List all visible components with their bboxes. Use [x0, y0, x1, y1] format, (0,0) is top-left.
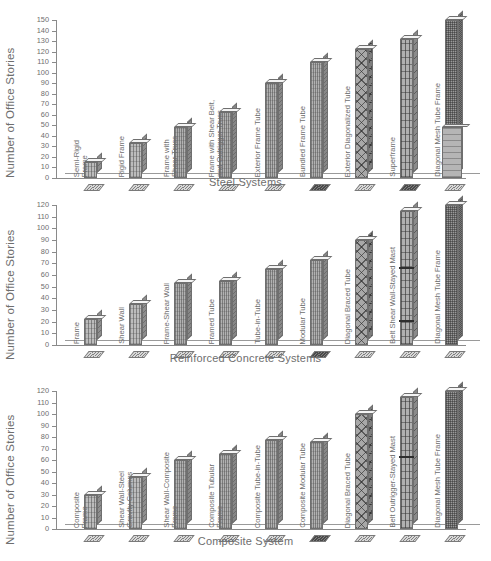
- bar-top: [265, 79, 287, 83]
- y-tick: [52, 83, 57, 84]
- bar-side: [278, 260, 283, 340]
- y-tick-label: 30: [27, 306, 49, 313]
- y-tick-label: 120: [27, 48, 49, 55]
- chart-panel-reinforced-concrete-systems: Number of Office Stories 010203040506070…: [0, 190, 491, 375]
- bar-top: [445, 201, 467, 205]
- y-tick-label: 90: [27, 422, 49, 429]
- y-tick-label: 80: [27, 90, 49, 97]
- y-tick: [52, 252, 57, 253]
- y-tick: [52, 310, 57, 311]
- y-tick: [52, 414, 57, 415]
- y-tick-label: 90: [27, 79, 49, 86]
- bar-top: [445, 387, 467, 391]
- bar-side: [97, 153, 102, 173]
- y-tick: [52, 217, 57, 218]
- bar: [400, 397, 413, 529]
- y-tick-label: 60: [27, 111, 49, 118]
- bar-category-label: Belt Outrigger-Stayed Mast: [389, 436, 397, 528]
- bar-front: [400, 211, 413, 345]
- bar: [265, 269, 278, 345]
- y-tick: [52, 518, 57, 519]
- bar-top: [355, 410, 377, 414]
- bar-category-label: Belt Shear Wall-Stayed Mast: [389, 247, 397, 344]
- bar-category-label: Superframe: [389, 137, 397, 177]
- y-tick: [52, 333, 57, 334]
- y-tick: [52, 146, 57, 147]
- bar-category-label: Composite Modular Tube: [299, 443, 307, 528]
- y-tick-label: 100: [27, 69, 49, 76]
- bar-front: [355, 414, 368, 529]
- y-tick-label: 50: [27, 121, 49, 128]
- y-tick: [52, 52, 57, 53]
- bar-category-label: Shear Wall: [118, 307, 126, 344]
- bar-side: [458, 381, 463, 524]
- bar-front: [445, 205, 458, 345]
- bar-category-label: Diagonal Braced Tube: [344, 453, 352, 528]
- y-tick: [52, 263, 57, 264]
- bar-front: [310, 260, 323, 345]
- bar-category-label: Composite Tube-in-Tube: [254, 445, 262, 528]
- bar-top: [355, 236, 377, 240]
- bar-front: [265, 83, 278, 178]
- bar-top: [400, 207, 422, 211]
- bar-front: [445, 391, 458, 529]
- y-axis-title: Number of Office Stories: [4, 380, 16, 545]
- bar-category-label: Exterior Diagonalized Tube: [344, 86, 352, 177]
- bar-category-label: Shear Wall-Composite Frame: [163, 452, 180, 528]
- bar-category-label: Diagonal Braced Tube: [344, 269, 352, 344]
- y-tick-label: 20: [27, 502, 49, 509]
- bar-category-label: Tube-in-Tube: [254, 299, 262, 344]
- y-tick-label: 10: [27, 514, 49, 521]
- bar-top: [265, 265, 287, 269]
- bar-top: [310, 438, 332, 442]
- bar: [355, 49, 368, 178]
- y-tick-label: 70: [27, 100, 49, 107]
- y-tick: [52, 115, 57, 116]
- y-tick: [52, 125, 57, 126]
- bar-side: [323, 250, 328, 340]
- y-tick: [52, 104, 57, 105]
- bar-category-label: Composite Tubular Frame: [208, 464, 225, 528]
- bar-side: [323, 53, 328, 173]
- bar-front: [129, 143, 142, 178]
- bar-side: [368, 230, 373, 340]
- y-tick: [52, 20, 57, 21]
- bar-front: [219, 281, 232, 345]
- y-tick-label: 120: [27, 201, 49, 208]
- x-axis: [56, 345, 466, 346]
- y-tick: [52, 460, 57, 461]
- bar: [129, 304, 142, 345]
- x-axis-title: Reinforced Concrete Systems: [0, 352, 491, 364]
- bar-side: [323, 432, 328, 524]
- bar-step-notch: [399, 320, 414, 322]
- bar-top: [129, 139, 151, 143]
- y-tick: [52, 426, 57, 427]
- y-tick-label: 30: [27, 491, 49, 498]
- y-tick: [52, 322, 57, 323]
- y-tick: [52, 275, 57, 276]
- bar: [400, 211, 413, 345]
- bar-top: [445, 16, 467, 20]
- y-tick-label: 0: [27, 525, 49, 532]
- y-tick-label: 110: [27, 213, 49, 220]
- bar: [310, 442, 323, 529]
- y-tick-label: 0: [27, 341, 49, 348]
- bar-top: [84, 315, 106, 319]
- y-tick: [52, 298, 57, 299]
- bar-front: [310, 62, 323, 178]
- y-tick-label: 150: [27, 16, 49, 23]
- y-tick: [52, 403, 57, 404]
- bar-side: [187, 450, 192, 524]
- y-tick-label: 50: [27, 283, 49, 290]
- plot-area: 0102030405060708090100110120FrameShear W…: [56, 205, 480, 345]
- bar: [174, 283, 187, 345]
- bar-front: [355, 49, 368, 178]
- bar-side: [232, 445, 237, 524]
- bar: [310, 260, 323, 345]
- y-axis-title: Number of Office Stories: [4, 8, 16, 178]
- bar: [84, 319, 97, 345]
- bar-top: [310, 256, 332, 260]
- bar-category-label: Rigid Frame: [118, 136, 126, 177]
- bar-front: [400, 397, 413, 529]
- bar-front: [310, 442, 323, 529]
